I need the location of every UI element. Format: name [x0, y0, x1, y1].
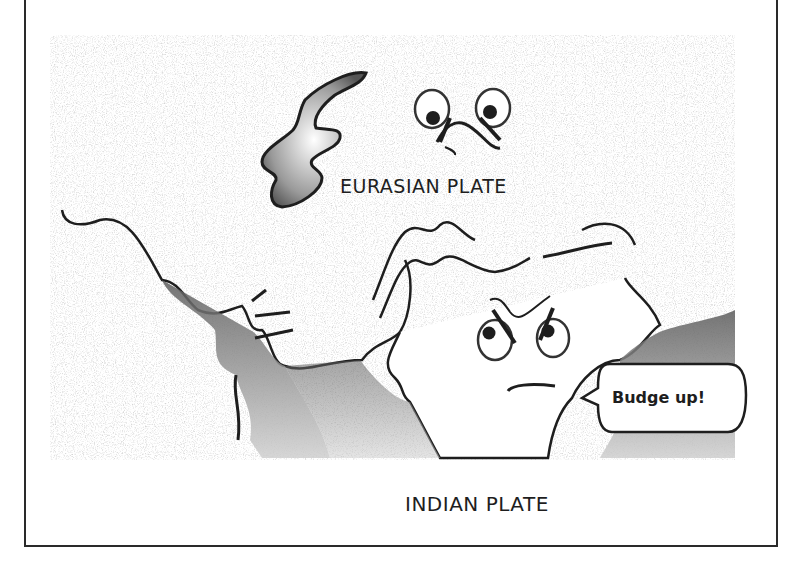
- eurasian-plate-label: EURASIAN PLATE: [340, 175, 507, 197]
- indian-plate-label: INDIAN PLATE: [405, 492, 549, 516]
- plate-cartoon-art: [0, 0, 808, 572]
- speech-bubble-text: Budge up!: [612, 388, 705, 407]
